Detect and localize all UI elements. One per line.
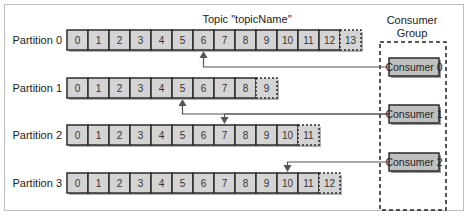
offset-label: 4: [159, 178, 165, 189]
partition-label: Partition 3: [12, 177, 62, 189]
offset-label: 1: [96, 35, 102, 46]
offset-label: 7: [222, 178, 228, 189]
offset-label: 6: [201, 83, 207, 94]
partition-0: Partition 0012345678910111213: [12, 30, 363, 52]
offset-label: 4: [159, 35, 165, 46]
offset-label: 10: [282, 35, 294, 46]
consumers: Consumer 0Consumer 1Consumer 2: [385, 58, 442, 173]
arrowhead-icon: [221, 117, 229, 124]
assignment-line: [225, 114, 390, 120]
offset-label: 3: [138, 83, 144, 94]
offset-label: 7: [222, 83, 228, 94]
offset-label: 5: [180, 35, 186, 46]
consumer-group-title-line1: Consumer: [387, 14, 438, 26]
offset-label: 7: [222, 35, 228, 46]
offset-label: 10: [282, 178, 294, 189]
offset-label: 11: [303, 35, 314, 46]
partitions: Partition 0012345678910111213Partition 1…: [12, 30, 363, 195]
offset-label: 8: [243, 35, 249, 46]
consumer-group-title-line2: Group: [397, 27, 428, 39]
assignment-line: [288, 162, 390, 168]
topic-title: Topic "topicName": [202, 13, 291, 25]
offset-label: 8: [243, 130, 249, 141]
assignment-line: [183, 103, 390, 114]
offset-label: 3: [138, 35, 144, 46]
offset-label: 12: [324, 178, 336, 189]
consumer-0: Consumer 0: [385, 58, 442, 78]
offset-label: 13: [345, 35, 357, 46]
offset-label: 11: [303, 130, 314, 141]
consumer-label: Consumer 1: [385, 108, 442, 120]
consumer-label: Consumer 0: [385, 61, 442, 73]
offset-label: 3: [138, 130, 144, 141]
offset-label: 6: [201, 130, 207, 141]
partition-3: Partition 30123456789101112: [12, 173, 342, 195]
offset-label: 1: [96, 178, 102, 189]
assignment-links: [179, 51, 390, 172]
offset-label: 2: [117, 130, 123, 141]
kafka-consumer-diagram: Topic "topicName" Consumer Group Partiti…: [0, 0, 469, 216]
offset-label: 5: [180, 178, 186, 189]
offset-label: 0: [75, 83, 81, 94]
offset-label: 0: [75, 35, 81, 46]
offset-label: 5: [180, 83, 186, 94]
offset-label: 6: [201, 35, 207, 46]
partition-label: Partition 0: [12, 34, 62, 46]
offset-label: 6: [201, 178, 207, 189]
offset-label: 9: [264, 35, 270, 46]
partition-label: Partition 2: [12, 129, 62, 141]
arrowhead-icon: [179, 99, 187, 106]
assignment-line: [204, 55, 390, 67]
offset-label: 0: [75, 178, 81, 189]
offset-label: 8: [243, 178, 249, 189]
offset-label: 9: [264, 178, 270, 189]
offset-label: 12: [324, 35, 336, 46]
consumer-label: Consumer 2: [385, 156, 442, 168]
offset-label: 2: [117, 178, 123, 189]
offset-label: 10: [282, 130, 294, 141]
offset-label: 3: [138, 178, 144, 189]
offset-label: 9: [264, 130, 270, 141]
offset-label: 5: [180, 130, 186, 141]
arrowhead-icon: [200, 51, 208, 58]
consumer-1: Consumer 1: [385, 105, 442, 125]
consumer-2: Consumer 2: [385, 153, 442, 173]
offset-label: 2: [117, 83, 123, 94]
offset-label: 11: [303, 178, 314, 189]
arrowhead-icon: [284, 165, 292, 172]
offset-label: 9: [264, 83, 270, 94]
offset-label: 4: [159, 130, 165, 141]
offset-label: 4: [159, 83, 165, 94]
partition-2: Partition 201234567891011: [12, 125, 321, 147]
offset-label: 8: [243, 83, 249, 94]
partition-label: Partition 1: [12, 82, 62, 94]
offset-label: 1: [96, 83, 102, 94]
partition-1: Partition 10123456789: [12, 78, 279, 100]
offset-label: 0: [75, 130, 81, 141]
offset-label: 2: [117, 35, 123, 46]
offset-label: 1: [96, 130, 102, 141]
offset-label: 7: [222, 130, 228, 141]
